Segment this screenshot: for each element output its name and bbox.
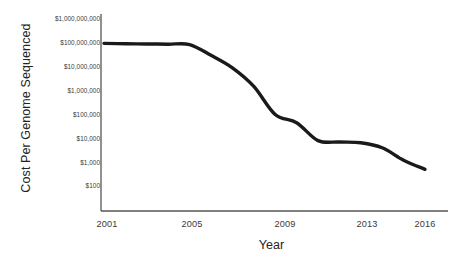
plot-area	[0, 0, 453, 263]
data-series-line	[104, 43, 425, 169]
cost-per-genome-chart: Cost Per Genome Sequenced $1,000,000,000…	[0, 0, 453, 263]
